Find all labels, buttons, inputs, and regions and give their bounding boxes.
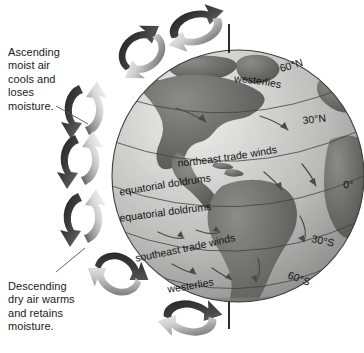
callout-ascending-air: Ascending moist air cools and loses mois… (8, 46, 96, 113)
cell-polar-north-top (161, 0, 231, 56)
callout-descending-air: Descending dry air warms and retains moi… (8, 280, 112, 334)
cell-lobe-light (81, 131, 103, 185)
cell-lobe-dark (57, 135, 79, 189)
cell-lobe-dark (60, 193, 82, 247)
cell-hadley-south-upper (60, 189, 106, 247)
figure-root: westerlies northeast trade winds equator… (0, 0, 364, 353)
latitude-label-30n: 30°N (302, 112, 327, 126)
leader-line-descending (56, 248, 85, 272)
cell-lobe-light (84, 189, 106, 243)
cell-hadley-north-lower (57, 131, 103, 189)
latitude-label-0: 0° (343, 178, 354, 191)
